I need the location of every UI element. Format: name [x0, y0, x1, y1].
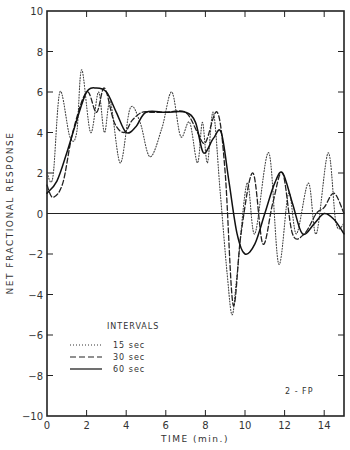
y-tick-label: −10	[22, 411, 43, 422]
annotation-label: 2 - FP	[285, 387, 314, 396]
x-tick-label: 0	[44, 420, 50, 431]
series-line-30-sec	[47, 88, 344, 306]
legend-title: INTERVALS	[107, 322, 159, 331]
y-tick-label: 6	[37, 87, 43, 98]
x-axis-tick-labels: 02468101214	[44, 420, 331, 431]
y-tick-label: −8	[28, 371, 43, 382]
x-tick-label: 8	[202, 420, 208, 431]
legend-label-30-sec: 30 sec	[113, 353, 145, 362]
y-tick-label: −6	[28, 330, 43, 341]
x-tick-label: 10	[239, 420, 252, 431]
x-tick-label: 2	[83, 420, 89, 431]
legend: INTERVALS 15 sec 30 sec 60 sec	[70, 322, 159, 374]
x-tick-label: 4	[123, 420, 129, 431]
y-tick-label: 10	[30, 6, 43, 17]
y-tick-label: 0	[37, 209, 43, 220]
y-tick-label: 4	[37, 128, 43, 139]
y-tick-label: 2	[37, 168, 43, 179]
y-tick-label: 8	[37, 47, 43, 58]
legend-label-15-sec: 15 sec	[113, 341, 145, 350]
y-tick-label: −4	[28, 290, 43, 301]
series-line-15-sec	[47, 70, 344, 315]
x-tick-label: 6	[163, 420, 169, 431]
legend-label-60-sec: 60 sec	[113, 365, 145, 374]
x-tick-label: 12	[278, 420, 291, 431]
x-axis-title: TIME (min.)	[160, 434, 229, 444]
series-layer	[47, 70, 344, 315]
line-chart: 02468101214 −10−8−6−4−20246810 TIME (min…	[0, 0, 350, 450]
y-axis-title: NET FRACTIONAL RESPONSE	[5, 132, 15, 295]
y-tick-label: −2	[28, 249, 43, 260]
plot-area	[47, 11, 344, 416]
y-axis-tick-labels: −10−8−6−4−20246810	[22, 6, 43, 422]
series-line-60-sec	[47, 88, 344, 254]
x-tick-label: 14	[318, 420, 331, 431]
